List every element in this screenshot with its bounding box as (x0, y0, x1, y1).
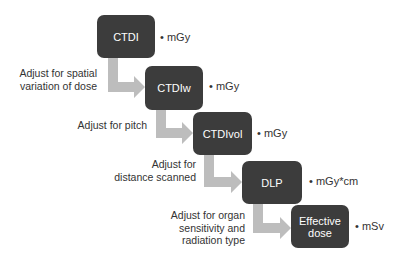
dlp-label: DLP (261, 177, 282, 189)
ctdiw-label: CTDIw (157, 82, 191, 94)
dlp-box: DLP (242, 161, 302, 204)
arrow-ctdivol-to-dlp (204, 155, 242, 193)
ctdiw-box: CTDIw (145, 66, 203, 110)
effective-dose-label: Effective dose (297, 215, 343, 239)
effective-dose-box: Effective dose (291, 205, 349, 248)
transition-label-pitch: Adjust for pitch (78, 119, 147, 132)
ctdi-unit: • mGy (160, 31, 190, 43)
ctdi-label: CTDI (113, 31, 139, 43)
dlp-unit: • mGy*cm (309, 175, 358, 187)
transition-label-distance: Adjust for distance scanned (114, 158, 196, 183)
effective-dose-unit: • mSv (355, 220, 384, 232)
arrow-ctdiw-to-ctdivol (156, 110, 193, 144)
arrow-dlp-to-effective-dose (253, 204, 291, 239)
ctdivol-unit: • mGy (257, 127, 287, 139)
arrow-ctdi-to-ctdiw (108, 58, 145, 98)
transition-label-organ: Adjust for organ sensitivity and radiati… (171, 209, 245, 247)
ctdivol-box: CTDIvol (193, 112, 252, 155)
ctdi-box: CTDI (97, 15, 155, 58)
transition-label-spatial: Adjust for spatial variation of dose (19, 67, 97, 92)
ctdiw-unit: • mGy (209, 80, 239, 92)
ctdivol-label: CTDIvol (203, 128, 243, 140)
